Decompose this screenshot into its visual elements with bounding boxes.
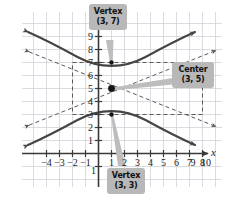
x-tick-9: 9 [191, 157, 196, 168]
vertex-bottom-point [109, 112, 113, 116]
callout-vertex-bottom-coords: (3, 3) [111, 181, 141, 191]
x-tick-10: 10 [201, 157, 211, 168]
center-point [108, 85, 115, 92]
x-tick-1: 1 [109, 157, 114, 168]
x-tick-6: 6 [174, 157, 179, 168]
y-tick-5: 5 [88, 83, 93, 94]
x-tick-2: 2 [122, 157, 127, 168]
callout-vertex-bottom: Vertex (3, 3) [107, 168, 145, 194]
x-tick-4: 4 [148, 157, 153, 168]
x-tick-3: 3 [135, 157, 140, 168]
callout-vertex-bottom-title: Vertex [111, 171, 141, 181]
y-tick-1: 1 [88, 135, 93, 146]
callout-vertex-top-title: Vertex [93, 7, 123, 17]
x-tick--3: −3 [54, 157, 65, 168]
x-tick--2: −2 [67, 157, 78, 168]
callout-center-coords: (3, 5) [176, 75, 210, 85]
y-tick-6: 6 [88, 70, 93, 81]
x-tick--4: −4 [41, 157, 52, 168]
x-tick--1: −1 [80, 157, 91, 168]
x-tick-labels-extra: 9 10 [191, 157, 212, 168]
callout-vertex-top: Vertex (3, 7) [89, 4, 127, 30]
callout-center: Center (3, 5) [172, 62, 214, 88]
y-tick-4: 4 [88, 96, 93, 107]
vertex-top-point [109, 60, 113, 64]
y-tick-7: 7 [88, 57, 93, 68]
callout-center-title: Center [176, 65, 210, 75]
y-tick--1: 1 [91, 165, 96, 176]
x-axis-label: x [211, 146, 216, 158]
y-tick-9: 9 [88, 31, 93, 42]
y-tick-8: 8 [88, 44, 93, 55]
x-tick-5: 5 [161, 157, 166, 168]
y-tick-3: 3 [88, 109, 93, 120]
y-tick-2: 2 [88, 122, 93, 133]
callout-vertex-top-coords: (3, 7) [93, 17, 123, 27]
